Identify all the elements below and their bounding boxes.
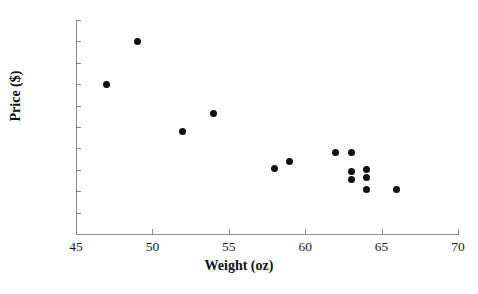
x-tick-label: 45 xyxy=(56,240,96,254)
x-tick xyxy=(152,229,153,235)
data-point xyxy=(363,174,370,181)
y-axis-title: Price ($) xyxy=(8,36,24,156)
plot-area: 01002003004005006007008009001000 4550556… xyxy=(76,20,458,234)
data-point xyxy=(348,168,355,175)
x-tick-label: 60 xyxy=(285,240,325,254)
y-tick xyxy=(76,148,81,149)
data-point xyxy=(348,149,355,156)
x-tick xyxy=(305,229,306,235)
data-point xyxy=(179,128,186,135)
x-tick-label: 55 xyxy=(209,240,249,254)
y-tick xyxy=(76,191,81,192)
y-tick xyxy=(76,20,81,21)
data-point xyxy=(363,166,370,173)
data-point xyxy=(103,81,110,88)
scatter-plot-figure: 01002003004005006007008009001000 4550556… xyxy=(0,0,478,294)
x-tick xyxy=(458,229,459,235)
y-tick xyxy=(76,127,81,128)
x-axis-title: Weight (oz) xyxy=(0,258,478,274)
data-point xyxy=(134,38,141,45)
data-point xyxy=(286,158,293,165)
x-tick xyxy=(382,229,383,235)
x-axis-line xyxy=(76,234,459,235)
data-point xyxy=(271,165,278,172)
data-point xyxy=(332,149,339,156)
y-tick xyxy=(76,41,81,42)
x-tick-label: 50 xyxy=(132,240,172,254)
data-point xyxy=(363,186,370,193)
y-tick xyxy=(76,213,81,214)
y-tick xyxy=(76,63,81,64)
data-point xyxy=(393,186,400,193)
x-tick xyxy=(229,229,230,235)
x-tick-label: 65 xyxy=(362,240,402,254)
y-tick xyxy=(76,84,81,85)
y-tick xyxy=(76,170,81,171)
y-tick xyxy=(76,106,81,107)
x-tick xyxy=(76,229,77,235)
data-point xyxy=(210,110,217,117)
data-point xyxy=(348,176,355,183)
x-tick-label: 70 xyxy=(438,240,478,254)
